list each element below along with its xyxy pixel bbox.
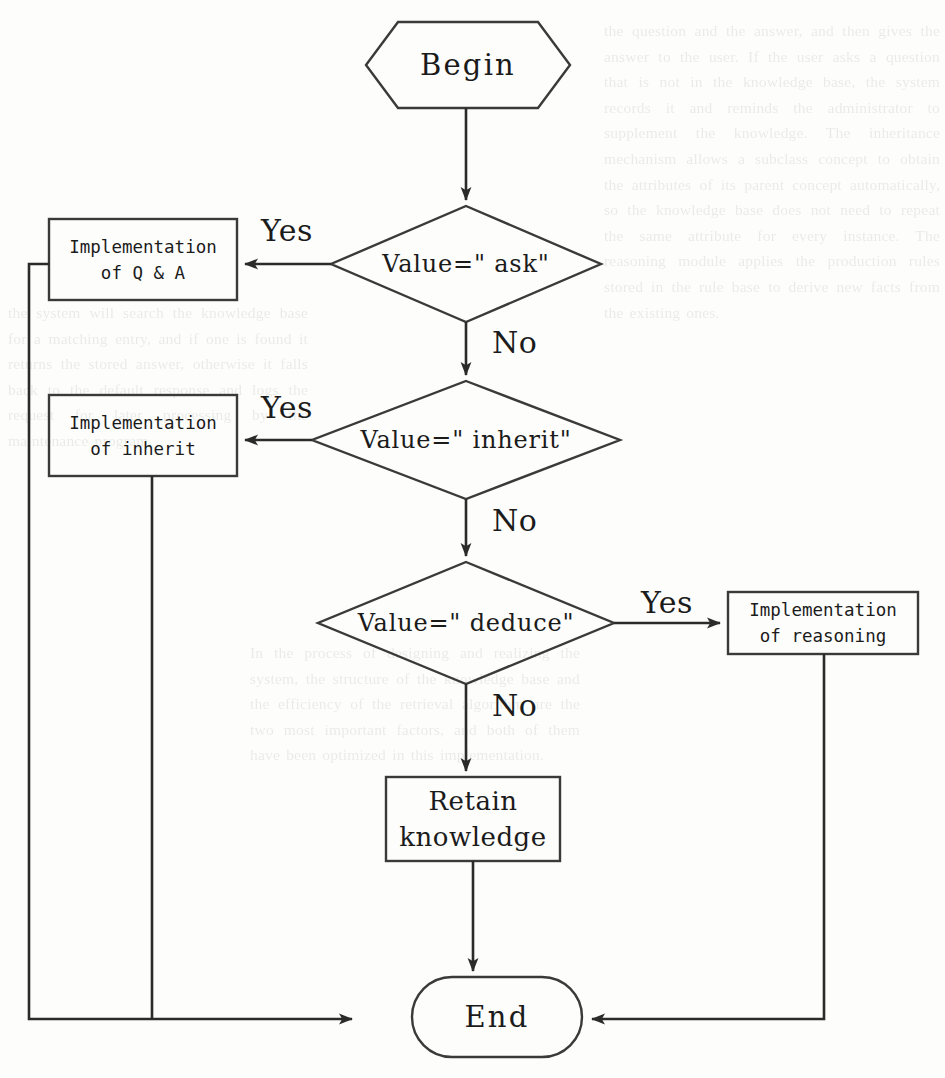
edge-reasoning-to-end — [592, 654, 824, 1019]
node-reasoning-shape — [728, 592, 918, 654]
scanned-page: the question and the answer, and then gi… — [0, 0, 945, 1078]
node-inherit-shape — [49, 395, 237, 476]
flowchart: Begin Value=" ask" Implementation of Q &… — [0, 0, 945, 1078]
node-retain-shape — [386, 777, 560, 861]
node-begin-shape — [366, 22, 570, 108]
node-qa-shape — [49, 219, 237, 300]
node-decision-deduce-shape — [318, 562, 614, 684]
node-end-shape — [412, 977, 582, 1057]
node-decision-inherit-shape — [312, 381, 620, 499]
flowchart-canvas — [0, 0, 945, 1078]
edge-qa-to-end — [29, 264, 352, 1019]
node-decision-ask-shape — [331, 206, 601, 322]
